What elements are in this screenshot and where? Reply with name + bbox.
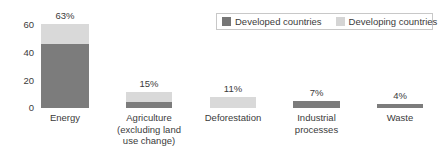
stacked-bar-chart: 60 40 20 0 Developed countries Developin…	[0, 0, 440, 154]
bar-value-waste: 4%	[377, 91, 423, 101]
bar-label-line: processes	[261, 124, 373, 136]
bar-group-energy: 63% Energy	[41, 0, 89, 154]
bar-segment-developed-waste	[377, 104, 423, 108]
bar-value-deforestation: 11%	[210, 84, 256, 94]
bar-stack-waste	[377, 104, 423, 108]
bar-segment-developing-energy	[41, 24, 89, 44]
bar-group-agriculture: 15% Agriculture (excluding land use chan…	[126, 0, 172, 154]
bar-stack-energy	[41, 24, 89, 108]
bar-stack-deforestation	[210, 97, 256, 108]
plot-area: 63% Energy 15% Agriculture (excluding la…	[0, 0, 440, 154]
bar-label-line: (excluding land	[93, 124, 205, 136]
bar-segment-developed-energy	[41, 44, 89, 108]
bar-value-agriculture: 15%	[126, 79, 172, 89]
bar-group-industrial-processes: 7% Industrial processes	[293, 0, 340, 154]
bar-label-line: use change)	[93, 135, 205, 147]
bar-label-line: Waste	[344, 112, 440, 124]
bar-segment-developed-industrial-processes	[293, 101, 340, 108]
bar-value-energy: 63%	[41, 11, 89, 21]
bar-segment-developing-agriculture	[126, 92, 172, 102]
bar-label-waste: Waste	[344, 112, 440, 124]
bar-segment-developing-deforestation	[210, 97, 256, 108]
bar-group-deforestation: 11% Deforestation	[210, 0, 256, 154]
bar-stack-industrial-processes	[293, 101, 340, 108]
bar-segment-developed-agriculture	[126, 102, 172, 108]
bar-value-industrial-processes: 7%	[293, 88, 340, 98]
bar-stack-agriculture	[126, 92, 172, 108]
bar-group-waste: 4% Waste	[377, 0, 423, 154]
